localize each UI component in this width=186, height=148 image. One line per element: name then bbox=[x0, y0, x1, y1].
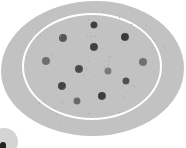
speck bbox=[104, 66, 105, 67]
speck bbox=[123, 96, 124, 97]
speck bbox=[37, 37, 38, 38]
speck bbox=[43, 101, 44, 102]
speck bbox=[83, 74, 84, 75]
speck bbox=[60, 36, 61, 37]
speck bbox=[38, 61, 39, 62]
speck bbox=[21, 51, 22, 52]
spot bbox=[123, 78, 130, 85]
spot bbox=[58, 82, 66, 90]
dish-illustration bbox=[0, 0, 186, 148]
speck bbox=[163, 47, 164, 48]
speck bbox=[86, 109, 87, 110]
speck bbox=[122, 86, 123, 87]
spot bbox=[91, 22, 98, 29]
spot bbox=[105, 68, 112, 75]
speck bbox=[131, 24, 132, 25]
speck bbox=[88, 113, 89, 114]
speck bbox=[40, 35, 41, 36]
speck bbox=[108, 57, 109, 58]
speck bbox=[132, 85, 133, 86]
speck bbox=[88, 61, 89, 62]
speck bbox=[86, 67, 87, 68]
speck bbox=[121, 42, 122, 43]
speck bbox=[108, 61, 109, 62]
spot bbox=[90, 43, 98, 51]
spot bbox=[139, 58, 147, 66]
speck bbox=[60, 123, 61, 124]
spot bbox=[74, 98, 81, 105]
speck bbox=[54, 108, 55, 109]
spot bbox=[75, 65, 83, 73]
speck bbox=[146, 25, 147, 26]
speck bbox=[134, 86, 135, 87]
speck bbox=[87, 36, 88, 37]
speck bbox=[108, 64, 109, 65]
spot bbox=[98, 92, 106, 100]
speck bbox=[102, 48, 103, 49]
speck bbox=[119, 112, 120, 113]
speck bbox=[126, 92, 127, 93]
speck bbox=[56, 114, 57, 115]
speck bbox=[61, 100, 62, 101]
speck bbox=[95, 36, 96, 37]
speck bbox=[69, 51, 70, 52]
speck bbox=[103, 11, 104, 12]
speck bbox=[39, 103, 40, 104]
speck bbox=[52, 55, 53, 56]
speck bbox=[86, 69, 87, 70]
spot bbox=[121, 33, 129, 41]
speck bbox=[110, 56, 111, 57]
corner-object-mark bbox=[0, 142, 6, 148]
spot bbox=[42, 57, 50, 65]
speck bbox=[27, 57, 28, 58]
speck bbox=[46, 14, 47, 15]
speck bbox=[154, 40, 155, 41]
dish-inner-ring bbox=[22, 13, 162, 120]
speck bbox=[101, 108, 102, 109]
speck bbox=[121, 27, 122, 28]
speck bbox=[91, 36, 92, 37]
speck bbox=[63, 102, 64, 103]
speck bbox=[88, 19, 89, 20]
speck bbox=[119, 17, 120, 18]
speck bbox=[94, 75, 95, 76]
speck bbox=[73, 50, 74, 51]
